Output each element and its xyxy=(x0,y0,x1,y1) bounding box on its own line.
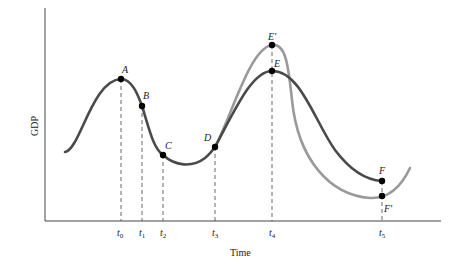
label-f: F xyxy=(378,165,386,176)
y-axis-title: GDP xyxy=(29,116,40,136)
gdp-business-cycle-diagram: A B C D E E' F F' t0 t1 t2 t3 t4 t5 Time… xyxy=(0,0,466,268)
tick-t5: t5 xyxy=(379,227,386,240)
x-axis-title: Time xyxy=(230,247,251,258)
label-d: D xyxy=(203,132,212,143)
label-e: E xyxy=(273,58,280,69)
tick-sub: 1 xyxy=(142,232,146,240)
label-a: A xyxy=(121,64,129,75)
label-b: B xyxy=(143,90,149,101)
tick-sub: 0 xyxy=(120,232,124,240)
point-f xyxy=(379,178,385,184)
point-d xyxy=(212,144,218,150)
tick-t1: t1 xyxy=(139,227,146,240)
tick-sub: 2 xyxy=(163,232,167,240)
tick-t4: t4 xyxy=(269,227,276,240)
label-e-prime: E' xyxy=(267,31,277,42)
point-c xyxy=(160,152,166,158)
tick-t0: t0 xyxy=(117,227,124,240)
tick-t3: t3 xyxy=(212,227,219,240)
guide-lines xyxy=(121,45,382,221)
point-f-prime xyxy=(379,193,385,199)
tick-sub: 5 xyxy=(382,232,386,240)
label-c: C xyxy=(165,140,172,151)
tick-sub: 3 xyxy=(215,232,219,240)
point-a xyxy=(118,76,124,82)
point-e-prime xyxy=(269,42,275,48)
tick-sub: 4 xyxy=(272,232,276,240)
tick-t2: t2 xyxy=(160,227,167,240)
label-f-prime: F' xyxy=(383,203,393,214)
point-b xyxy=(139,103,145,109)
